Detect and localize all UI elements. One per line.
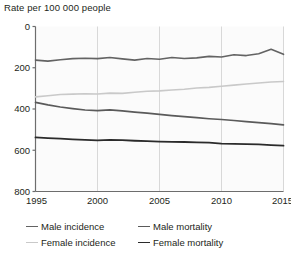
x-tick-label: 2010 xyxy=(211,195,232,206)
legend-item-female-mortality: Female mortality xyxy=(138,237,223,248)
legend-label-male-mortality: Male mortality xyxy=(153,221,212,232)
line-chart-plot: 8006004002000 19952000200520102015 xyxy=(0,0,291,218)
legend-label-female-incidence: Female incidence xyxy=(41,237,115,248)
legend-swatch-male-mortality xyxy=(138,226,150,227)
legend-row-1: Male incidence Male mortality xyxy=(26,218,291,234)
chart-figure: Rate per 100 000 people 8006004002000 19… xyxy=(0,0,291,262)
legend-item-female-incidence: Female incidence xyxy=(26,237,138,248)
chart-legend: Male incidence Male mortality Female inc… xyxy=(0,218,291,262)
legend-swatch-female-incidence xyxy=(26,242,38,243)
y-axis-ticks: 8006004002000 xyxy=(14,21,35,197)
x-tick-label: 2005 xyxy=(149,195,170,206)
legend-item-male-incidence: Male incidence xyxy=(26,221,138,232)
legend-swatch-male-incidence xyxy=(26,226,38,227)
legend-label-female-mortality: Female mortality xyxy=(153,237,223,248)
y-tick-label: 0 xyxy=(25,21,30,32)
x-tick-label: 2015 xyxy=(272,195,291,206)
legend-label-male-incidence: Male incidence xyxy=(41,221,104,232)
legend-item-male-mortality: Male mortality xyxy=(138,221,212,232)
x-axis-ticks: 19952000200520102015 xyxy=(26,195,291,206)
y-tick-label: 200 xyxy=(14,62,30,73)
x-tick-label: 2000 xyxy=(87,195,108,206)
x-tick-label: 1995 xyxy=(26,195,47,206)
y-tick-label: 400 xyxy=(14,103,30,114)
legend-row-2: Female incidence Female mortality xyxy=(26,234,291,250)
y-tick-label: 600 xyxy=(14,145,30,156)
legend-swatch-female-mortality xyxy=(138,242,150,243)
